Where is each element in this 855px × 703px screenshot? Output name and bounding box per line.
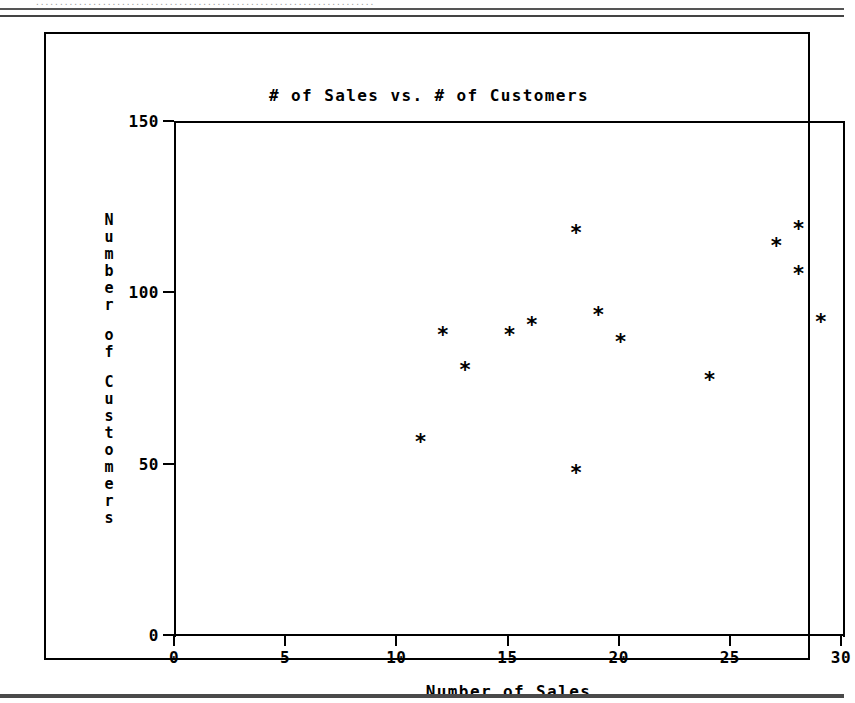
y-axis-tick [163,291,174,293]
y-axis-tick-label: 50 [99,455,159,474]
x-axis-tick [173,635,175,646]
y-axis-tick [163,120,174,122]
y-axis-tick-label: 0 [99,626,159,645]
header-rule-top [0,8,844,10]
x-axis-tick-label: 5 [255,648,315,667]
y-axis-title-char: N [98,212,120,229]
y-axis-title-char: m [98,246,120,263]
scan-artifact-header: ........................................… [0,0,844,24]
y-axis-title-char: b [98,263,120,280]
y-axis-title-char: s [98,408,120,425]
y-axis-title: Number of Customers [98,212,120,527]
y-axis-title-char: t [98,425,120,442]
y-axis-title-char: f [98,344,120,361]
y-axis-title-char: s [98,510,120,527]
scan-artifact-footer [0,694,844,698]
y-axis-tick-label: 100 [99,283,159,302]
y-axis-title-char: o [98,327,120,344]
chart-title: # of Sales vs. # of Customers [46,86,812,105]
header-rule-bottom [0,15,844,17]
y-axis-tick [163,463,174,465]
x-axis-tick-label: 0 [144,648,204,667]
x-axis-tick [284,635,286,646]
plot-markers-layer: ************** [176,123,843,637]
x-axis-tick [507,635,509,646]
clipped-header-text: ........................................… [36,0,375,5]
x-axis-tick [729,635,731,646]
x-axis-tick [618,635,620,646]
x-axis-tick [395,635,397,646]
x-axis-tick-label: 30 [811,648,855,667]
x-axis-tick [840,635,842,646]
x-axis-line [174,634,843,636]
y-axis-title-char: r [98,493,120,510]
y-axis-title-char: u [98,391,120,408]
y-axis-title-char: C [98,374,120,391]
x-axis-title: Number of Sales [174,682,843,701]
y-axis-tick-label: 150 [99,112,159,131]
y-axis-title-char: e [98,476,120,493]
x-axis-tick-label: 20 [589,648,649,667]
x-axis-tick-label: 25 [700,648,760,667]
x-axis-tick-label: 10 [366,648,426,667]
x-axis-tick-label: 15 [478,648,538,667]
figure-frame: # of Sales vs. # of Customers Number of … [44,32,810,660]
y-axis-title-char: u [98,229,120,246]
plot-area: ************** [174,121,845,637]
